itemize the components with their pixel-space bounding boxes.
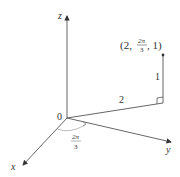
svg-text:, 1): , 1) (147, 39, 162, 52)
origin-label: 0 (57, 111, 62, 122)
z-axis-label: z (57, 10, 62, 21)
y-axis (67, 118, 171, 142)
svg-text:2π: 2π (72, 133, 80, 141)
svg-text:3: 3 (140, 46, 144, 54)
height-length-label: 1 (155, 71, 160, 82)
radial-length-label: 2 (119, 94, 124, 105)
radial-segment (67, 103, 163, 118)
svg-text:3: 3 (74, 143, 78, 151)
x-axis (23, 118, 67, 165)
x-axis-label: x (10, 161, 16, 172)
point-label: (2, 2π 3 , 1) (120, 37, 162, 54)
point-marker (162, 54, 165, 57)
cylindrical-coordinates-diagram: z y x 0 2 1 (2, 2π 3 , 1) 2π 3 (0, 0, 180, 177)
angle-label: 2π 3 (71, 133, 81, 151)
angle-arc (57, 125, 85, 131)
y-axis-label: y (165, 144, 171, 155)
svg-text:(2,: (2, (120, 39, 132, 52)
svg-text:2π: 2π (138, 37, 146, 45)
